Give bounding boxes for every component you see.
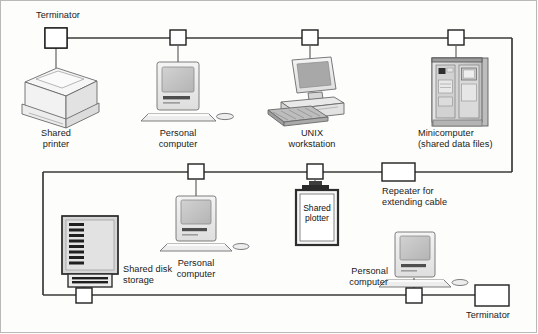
label-personal-computer-top: Personal computer [138,128,218,150]
label-shared-plotter: Shared plotter [299,203,335,224]
label-shared-disk-storage: Shared disk storage [123,264,213,286]
desktop-computer-icon-middle [160,196,249,251]
tap-box-personal-computer-bottom[interactable] [406,288,422,303]
workstation-icon [268,57,344,126]
label-minicomputer: Minicomputer (shared data files) [418,128,534,150]
printer-icon [22,68,99,128]
tap-box-personal-computer-middle[interactable] [188,164,204,179]
disk-array-icon [62,216,118,287]
terminator-top-left-box[interactable] [45,28,67,48]
tap-box-shared-plotter[interactable] [307,164,323,179]
terminator-bottom-right-box[interactable] [475,285,509,306]
label-repeater: Repeater for extending cable [382,186,502,208]
label-terminator-top: Terminator [36,10,80,21]
tap-box-minicomputer[interactable] [448,30,464,45]
label-shared-printer: Shared printer [16,128,96,150]
tap-box-shared-disk-storage[interactable] [76,288,92,303]
repeater-icon[interactable] [382,163,415,181]
desktop-computer-icon-top [141,62,234,121]
label-personal-computer-bottom: Personal computer [300,266,388,288]
network-topology-diagram: Terminator Shared printer Personal compu… [0,0,538,334]
minicomputer-cabinet-icon [432,58,488,126]
tap-box-unix-workstation[interactable] [302,30,318,45]
label-terminator-bottom: Terminator [466,310,510,321]
tap-box-personal-computer-top[interactable] [170,30,186,45]
diagram-canvas [0,0,538,334]
desktop-computer-icon-bottom [379,232,468,287]
label-unix-workstation: UNIX workstation [272,128,352,150]
